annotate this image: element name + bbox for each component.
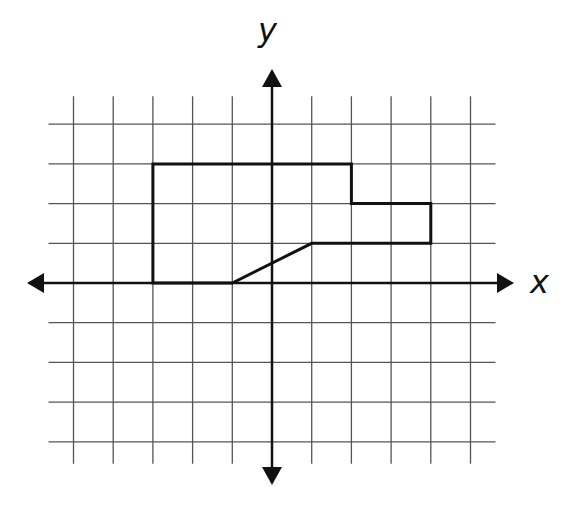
x-axis-arrow-left-icon bbox=[27, 273, 44, 293]
figure-polygon bbox=[153, 164, 431, 283]
y-axis-arrow-down-icon bbox=[262, 467, 282, 485]
y-axis-label: y bbox=[258, 14, 277, 46]
x-axis-arrow-right-icon bbox=[497, 273, 514, 293]
x-axis-label: x bbox=[530, 266, 549, 298]
y-axis-arrow-up-icon bbox=[262, 69, 282, 87]
axes bbox=[27, 69, 514, 485]
coordinate-plane bbox=[0, 0, 580, 511]
